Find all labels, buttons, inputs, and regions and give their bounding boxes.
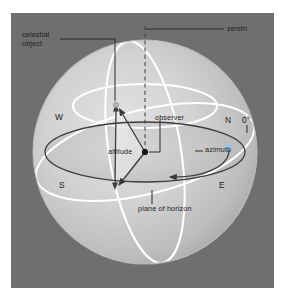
label-celestial-object: celestialobject bbox=[22, 31, 68, 48]
label-west: W bbox=[55, 113, 63, 121]
label-north: N bbox=[225, 116, 231, 124]
figure-container: celestialobject zenith observer altitude… bbox=[0, 0, 286, 302]
observer-point bbox=[142, 149, 148, 155]
label-plane-of-horizon: plane of horizon bbox=[138, 205, 192, 213]
label-altitude: altitude bbox=[108, 148, 132, 156]
label-zero-degrees: 0° bbox=[242, 116, 251, 124]
label-observer: observer bbox=[155, 114, 184, 122]
label-zenith: zenith bbox=[227, 25, 247, 33]
label-azimuth: azimuth bbox=[205, 146, 231, 154]
label-celestial-object-line2: object bbox=[22, 39, 42, 48]
label-south: S bbox=[59, 181, 65, 189]
celestial-object-point bbox=[113, 102, 118, 107]
label-east: E bbox=[219, 181, 225, 189]
